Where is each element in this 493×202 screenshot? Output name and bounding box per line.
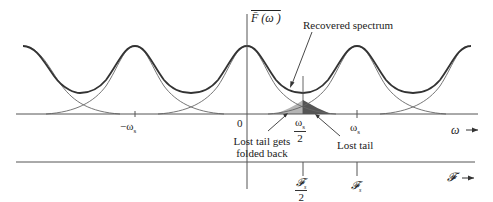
y-axis-label: F̄ (ω ) [251,12,281,24]
half-fs-tick-label: 𝓕s 2 [295,177,307,202]
recovered-spectrum-arrow [290,32,312,88]
ws-tick-label: ωs [350,122,360,136]
lost-tail-shade [303,100,331,114]
lost-tail-arrow [315,114,340,136]
zero-tick-label: 0 [237,118,243,129]
lost-tail-label: Lost tail [337,140,373,151]
folded-tail-arrow [268,113,288,131]
neg-ws-tick-label: −ωs [120,121,136,135]
aliasing-spectrum-diagram [0,0,493,202]
omega-arrow-icon [466,128,478,133]
recovered-spectrum-label: Recovered spectrum [303,20,393,31]
f-arrow-icon [462,176,474,181]
f-axis-label: 𝓕 [447,171,456,183]
folded-tail-label: Lost tail gets folded back [222,136,302,159]
fs-tick-label: 𝓕s [351,180,361,193]
omega-axis-label: ω [451,124,459,136]
individual-spectra [23,46,469,114]
folded-tail-shade [275,100,303,114]
